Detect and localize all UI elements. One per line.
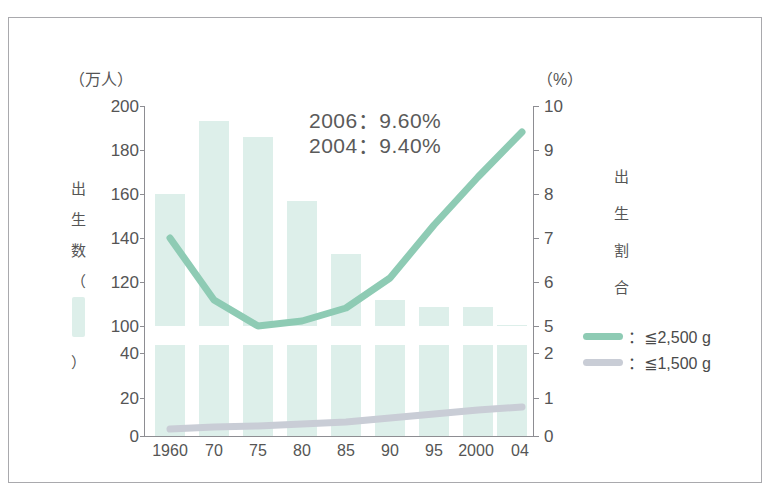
x-axis-label-75: 75 [239, 442, 277, 460]
annotation-2004: 2004：9.40% [309, 133, 441, 158]
chart-frame: （万人） （%） 出生数 出 生 数 （ ） 出 生 割 合 200 180 1… [8, 17, 762, 483]
legend-label-2500g: ：≦2,500 g [628, 324, 711, 348]
legend-label-1500g: ：≦1,500 g [628, 350, 711, 374]
x-axis-label-80: 80 [283, 442, 321, 460]
x-axis-label-85: 85 [327, 442, 365, 460]
legend-item-2500g: ：≦2,500 g [583, 323, 711, 349]
x-axis-label-1960: 1960 [146, 442, 194, 460]
legend-item-1500g: ：≦1,500 g [583, 349, 711, 375]
line-series-1500g [170, 407, 522, 429]
legend: ：≦2,500 g ：≦1,500 g [583, 323, 711, 375]
line-series-2500g-upper [170, 132, 522, 326]
legend-swatch-2500g-icon [583, 333, 623, 340]
x-axis-label-2000: 2000 [452, 442, 500, 460]
x-axis-label-04: 04 [501, 442, 539, 460]
x-axis-label-95: 95 [415, 442, 453, 460]
series-lines-layer [9, 18, 763, 484]
annotation-2006: 2006：9.60% [309, 108, 441, 133]
annotation-block: 2006：9.60% 2004：9.40% [309, 108, 441, 158]
legend-swatch-1500g-icon [583, 359, 623, 366]
x-axis-label-70: 70 [195, 442, 233, 460]
x-axis-label-90: 90 [371, 442, 409, 460]
